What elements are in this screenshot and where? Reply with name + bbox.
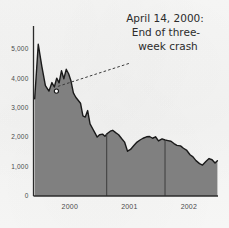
chart-plot-area xyxy=(35,44,218,196)
y-tick-label: 4,000 xyxy=(11,75,28,82)
nasdaq-area-chart: 5,0004,0003,0002,0001,0000 200020012002 … xyxy=(0,0,229,228)
y-tick-label: 3,000 xyxy=(11,104,28,111)
y-tick-label: 1,000 xyxy=(11,163,28,170)
x-tick-label: 2001 xyxy=(121,203,137,210)
y-tick-label: 2,000 xyxy=(11,133,28,140)
chart-page: 5,0004,0003,0002,0001,0000 200020012002 … xyxy=(0,0,229,228)
annotation-line-1: April 14, 2000: xyxy=(126,12,204,24)
area-series-fill xyxy=(35,44,218,196)
annotation-line-3: week crash xyxy=(138,40,198,52)
annotation-line-2: End of three- xyxy=(132,26,201,38)
x-tick-label: 2000 xyxy=(62,203,78,210)
y-axis-tick-labels: 5,0004,0003,0002,0001,0000 xyxy=(11,45,28,199)
x-axis-tick-labels: 200020012002 xyxy=(62,203,197,210)
y-tick-label: 0 xyxy=(25,192,29,199)
marker-point-circle xyxy=(54,89,58,93)
crash-annotation: April 14, 2000: End of three- week crash xyxy=(54,12,204,93)
x-tick-label: 2002 xyxy=(181,203,197,210)
y-tick-label: 5,000 xyxy=(11,45,28,52)
